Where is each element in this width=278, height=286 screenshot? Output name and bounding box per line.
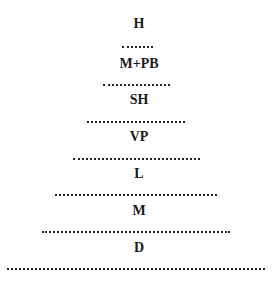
dotted-separator: [55, 194, 217, 196]
dotted-separator: [87, 121, 185, 123]
level-label-d: D: [0, 240, 278, 256]
level-label-h: H: [0, 16, 278, 32]
dotted-separator: [122, 46, 153, 48]
dotted-separator: [7, 268, 265, 270]
dotted-separator: [73, 158, 200, 160]
dotted-separator: [103, 84, 170, 86]
level-label-sh: SH: [0, 92, 278, 108]
level-label-vp: VP: [0, 129, 278, 145]
level-label-m: M: [0, 203, 278, 219]
dotted-separator: [42, 231, 230, 233]
level-label-l: L: [0, 166, 278, 182]
level-label-m-pb: M+PB: [0, 56, 278, 72]
